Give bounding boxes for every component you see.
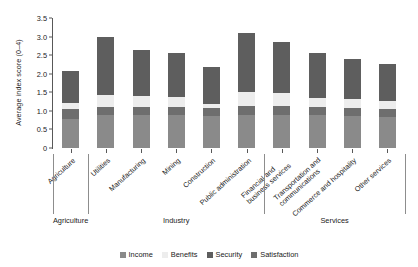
group-label: Services	[320, 216, 348, 225]
x-axis-label-line: Other services	[353, 156, 393, 194]
bar-segment-income	[344, 116, 361, 148]
bar-other-services	[379, 64, 396, 148]
group-separator	[53, 154, 54, 214]
bar-segment-satisfaction	[62, 109, 79, 119]
x-axis-label-line: Utilities	[89, 156, 112, 178]
x-tick-mark	[317, 149, 318, 153]
x-tick-mark	[176, 149, 177, 153]
bar-financial-and-business-services	[273, 42, 290, 148]
group-separator	[264, 154, 265, 214]
bar-segment-security	[238, 33, 255, 92]
legend-label: Benefits	[171, 250, 198, 259]
x-axis-label-line: Construction	[181, 156, 217, 190]
x-axis-label-line: Mining	[160, 156, 182, 177]
bar-segment-security	[203, 67, 220, 103]
bar-segment-benefits	[97, 95, 114, 107]
bar-segment-satisfaction	[273, 106, 290, 114]
bar-segment-security	[273, 42, 290, 93]
x-axis-label-line: Agriculture	[45, 156, 77, 186]
chart-legend: IncomeBenefitsSecuritySatisfaction	[0, 250, 418, 259]
legend-label: Satisfaction	[260, 250, 298, 259]
bar-segment-income	[62, 119, 79, 148]
legend-item: Security	[207, 250, 243, 259]
x-tick-mark	[211, 149, 212, 153]
bar-segment-income	[273, 115, 290, 148]
x-tick-mark	[352, 149, 353, 153]
plot-area: 00.51.01.52.02.53.03.5	[52, 18, 404, 148]
legend-label: Security	[216, 250, 243, 259]
bar-segment-benefits	[309, 98, 326, 107]
y-axis-title: Average index score (0–4)	[14, 18, 23, 148]
bar-segment-satisfaction	[238, 106, 255, 115]
bar-manufacturing	[133, 50, 150, 148]
x-axis-label: Manufacturing	[107, 156, 147, 193]
bar-segment-income	[168, 115, 185, 148]
bar-segment-security	[309, 53, 326, 98]
legend-label: Income	[129, 250, 153, 259]
legend-item: Satisfaction	[251, 250, 298, 259]
group-label: Agriculture	[53, 216, 88, 225]
bar-segment-security	[133, 50, 150, 96]
legend-swatch-income	[120, 252, 126, 258]
x-axis-label: Construction	[181, 156, 217, 190]
bar-segment-benefits	[344, 99, 361, 108]
bar-segment-income	[238, 115, 255, 148]
x-tick-mark	[106, 149, 107, 153]
group-separator	[88, 154, 89, 214]
bar-segment-security	[168, 53, 185, 96]
legend-swatch-benefits	[162, 252, 168, 258]
bar-segment-benefits	[168, 97, 185, 107]
legend-item: Benefits	[162, 250, 198, 259]
x-axis-label: Agriculture	[45, 156, 77, 186]
x-tick-mark	[387, 149, 388, 153]
bar-segment-satisfaction	[203, 108, 220, 116]
bar-segment-security	[344, 59, 361, 99]
x-tick-mark	[282, 149, 283, 153]
bar-construction	[203, 67, 220, 148]
bar-segment-benefits	[273, 93, 290, 106]
bar-segment-security	[97, 37, 114, 96]
legend-swatch-security	[207, 252, 213, 258]
legend-item: Income	[120, 250, 153, 259]
bar-segment-income	[97, 115, 114, 148]
group-separator	[405, 154, 406, 214]
bar-segment-income	[133, 115, 150, 148]
bar-transportation-and-communications	[309, 53, 326, 148]
bar-mining	[168, 53, 185, 148]
bar-segment-income	[203, 116, 220, 148]
x-tick-mark	[71, 149, 72, 153]
bar-agriculture	[62, 71, 79, 148]
bar-segment-satisfaction	[168, 107, 185, 115]
bar-segment-benefits	[379, 101, 396, 109]
x-axis-labels: AgricultureUtilitiesManufacturingMiningC…	[52, 149, 404, 205]
bar-segment-income	[379, 117, 396, 148]
bar-segment-benefits	[238, 92, 255, 106]
x-axis-label-line: Manufacturing	[107, 156, 147, 193]
group-label: Industry	[163, 216, 189, 225]
x-axis-label: Mining	[160, 156, 182, 177]
x-axis-label: Utilities	[89, 156, 112, 178]
bar-segment-satisfaction	[309, 107, 326, 115]
bar-segment-satisfaction	[133, 107, 150, 115]
bar-segment-satisfaction	[97, 107, 114, 115]
bar-segment-satisfaction	[379, 109, 396, 117]
legend-swatch-satisfaction	[251, 252, 257, 258]
bar-segment-income	[309, 115, 326, 148]
x-axis-label: Other services	[353, 156, 393, 194]
bars-container	[52, 18, 404, 148]
stacked-bar-chart: Average index score (0–4) 00.51.01.52.02…	[0, 0, 418, 267]
bar-segment-satisfaction	[344, 108, 361, 116]
bar-segment-security	[62, 71, 79, 104]
bar-segment-benefits	[133, 96, 150, 107]
x-tick-mark	[141, 149, 142, 153]
bar-commerce-and-hospitality	[344, 59, 361, 148]
x-tick-mark	[247, 149, 248, 153]
bar-utilities	[97, 37, 114, 148]
bar-public-administration	[238, 33, 255, 148]
bar-segment-security	[379, 64, 396, 101]
